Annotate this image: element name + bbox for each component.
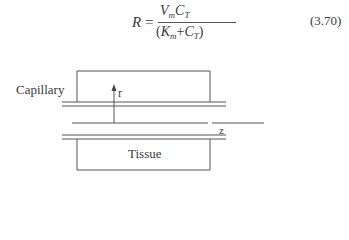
z-axis-label: z — [219, 124, 224, 136]
tissue-label: Tissue — [128, 146, 161, 162]
capillary-label: Capillary — [16, 82, 64, 98]
upper-tissue-box — [77, 71, 210, 102]
r-axis-label: r — [118, 86, 122, 101]
arrow-head-icon — [112, 84, 117, 91]
